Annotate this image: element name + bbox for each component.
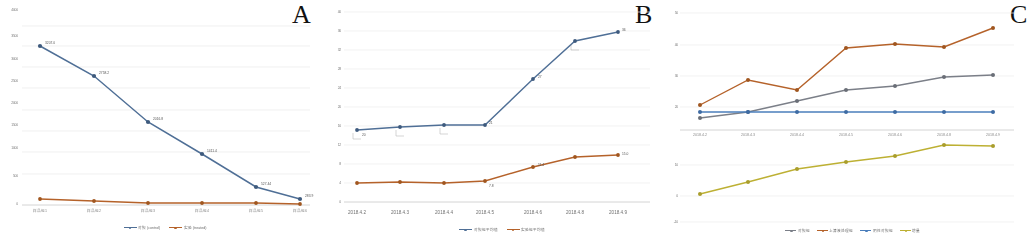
panel-c-legend: 对照组 上清液处理组 阴性对照组 增量 (674, 228, 1031, 233)
panel-a-point-label-4: 527.44 (261, 182, 271, 186)
panel-b-xlab-3: 2018.4.5 (476, 210, 494, 215)
panel-c-xlab-1: 2018.4.3 (741, 133, 755, 137)
panel-b-series-treated (355, 153, 620, 185)
chart-panel-b: B (330, 0, 674, 239)
panel-b-ytick-7: 28 (330, 67, 341, 71)
panel-a-legend-label-0: 对照 (control) (138, 225, 160, 230)
panel-a-ytick-1: 500 (0, 174, 18, 178)
panel-b-ytick-5: 20 (330, 105, 341, 109)
panel-b-ytick-10: 40 (330, 10, 341, 14)
panel-b-plot (330, 0, 674, 239)
panel-a-point-label-1: 2758.2 (99, 71, 109, 75)
panel-a-legend: 对照 (control) 实验 (treated) (0, 225, 330, 230)
panel-c-xlab-6: 2018.4.9 (986, 133, 1000, 137)
panel-b-ytick-1: 4 (330, 181, 341, 185)
panel-b-ytick-4: 16 (330, 124, 341, 128)
panel-a-ytick-3: 1500 (0, 123, 18, 127)
panel-b-xlab-2: 2018.4.4 (435, 210, 453, 215)
panel-c-ytick-5: 40 (670, 43, 678, 47)
panel-c-xlab-3: 2018.4.5 (839, 133, 853, 137)
panel-a-ytick-2: 1000 (0, 146, 18, 150)
legend-line-marker-icon (785, 230, 796, 231)
panel-b-ytick-8: 32 (330, 48, 341, 52)
panel-a-ytick-7: 3500 (0, 34, 18, 38)
panel-c-legend-item-0[interactable]: 对照组 (785, 228, 810, 233)
panel-b-point-label-b0: 20 (362, 133, 366, 137)
panel-b-point-label-o3: 7.8 (489, 184, 494, 188)
legend-line-marker-icon (507, 229, 520, 230)
three-panel-line-chart-figure: A (0, 0, 1031, 239)
panel-c-legend-item-1[interactable]: 上清液处理组 (817, 228, 854, 233)
panel-a-series-control (38, 44, 302, 201)
legend-line-marker-icon (817, 230, 828, 231)
panel-c-ytick-3: 20 (670, 105, 678, 109)
panel-b-ytick-6: 24 (330, 86, 341, 90)
panel-b-gridlines (344, 12, 650, 183)
panel-c-ytick-1: 0 (670, 194, 678, 198)
panel-b-legend-item-0[interactable]: 对照组平均值 (459, 227, 498, 232)
panel-c-plot (674, 0, 1031, 239)
panel-b-ytick-9: 36 (330, 29, 341, 33)
panel-c-legend-label-0: 对照组 (798, 228, 810, 233)
panel-b-legend-label-0: 对照组平均值 (474, 227, 498, 232)
panel-c-ytick-0: -10 (670, 220, 678, 224)
panel-b-series-control (355, 30, 620, 132)
panel-c-legend-item-3[interactable]: 增量 (900, 228, 921, 233)
panel-a-xlab-0: 样品组1 (33, 208, 47, 213)
panel-c-gridlines (680, 13, 1014, 222)
panel-c-legend-label-2: 阴性对照组 (873, 228, 893, 233)
panel-b-point-label-b4: 27 (538, 75, 542, 79)
panel-a-point-label-5: 283.9 (305, 194, 313, 198)
legend-line-marker-icon (900, 230, 911, 231)
legend-line-marker-icon (459, 229, 472, 230)
panel-b-ytick-2: 8 (330, 162, 341, 166)
panel-a-point-label-2: 2016.8 (153, 117, 163, 121)
panel-b-legend-label-1: 实验组平均值 (521, 227, 545, 232)
panel-c-xlab-0: 2018.4.2 (693, 133, 707, 137)
legend-line-marker-icon (169, 227, 182, 228)
panel-a-point-label-0: 3207.0 (45, 41, 55, 45)
panel-a-series-treated (38, 197, 302, 206)
panel-a-ytick-0: 0 (0, 202, 18, 206)
panel-c-series-negative-control (698, 110, 995, 114)
legend-line-marker-icon (124, 227, 137, 228)
panel-c-legend-item-2[interactable]: 阴性对照组 (860, 228, 893, 233)
panel-c-ytick-2: 10 (670, 163, 678, 167)
panel-a-legend-item-0[interactable]: 对照 (control) (124, 225, 161, 230)
panel-b-point-label-o6: 15.0 (622, 152, 628, 156)
panel-a-point-label-3: 1411.4 (207, 149, 217, 153)
panel-b-legend: 对照组平均值 实验组平均值 (330, 227, 674, 232)
panel-c-xlab-5: 2018.4.8 (937, 133, 951, 137)
legend-line-marker-icon (860, 230, 871, 231)
panel-a-xlab-2: 样品组3 (141, 208, 155, 213)
panel-b-point-label-b3: 21 (489, 121, 493, 125)
panel-c-xlab-2: 2018.4.4 (790, 133, 804, 137)
panel-a-ytick-6: 3000 (0, 57, 18, 61)
panel-a-xlab-1: 样品组2 (87, 208, 101, 213)
panel-a-gridlines (22, 26, 310, 174)
panel-b-point-label-b6: 36 (622, 28, 626, 32)
panel-b-xlab-0: 2018.4.2 (348, 210, 366, 215)
panel-b-ytick-0: 0 (330, 200, 341, 204)
panel-a-ytick-8: 4000 (0, 8, 18, 12)
panel-b-xlab-1: 2018.4.3 (391, 210, 409, 215)
panel-a-xlab-5: 样品组6 (293, 208, 307, 213)
panel-b-point-label-o4: 11.4 (538, 163, 544, 167)
panel-c-ytick-6: 50 (670, 11, 678, 15)
panel-a-legend-label-1: 实验 (treated) (184, 225, 207, 230)
panel-b-xlab-4: 2018.4.6 (524, 210, 542, 215)
panel-c-legend-label-1: 上清液处理组 (829, 228, 853, 233)
chart-panel-a: A (0, 0, 330, 239)
panel-a-plot (0, 0, 330, 239)
panel-c-legend-label-3: 增量 (912, 228, 920, 233)
panel-a-legend-item-1[interactable]: 实验 (treated) (169, 225, 206, 230)
panel-b-legend-item-1[interactable]: 实验组平均值 (507, 227, 546, 232)
panel-b-xlab-5: 2018.4.8 (566, 210, 584, 215)
panel-c-series-supernatant (698, 26, 995, 107)
panel-a-xlab-3: 样品组4 (195, 208, 209, 213)
panel-b-xlab-6: 2018.4.9 (609, 210, 627, 215)
chart-panel-c: C (674, 0, 1031, 239)
panel-a-xlab-4: 样品组5 (249, 208, 263, 213)
panel-a-ytick-5: 2500 (0, 79, 18, 83)
panel-c-xlab-4: 2018.4.6 (888, 133, 902, 137)
